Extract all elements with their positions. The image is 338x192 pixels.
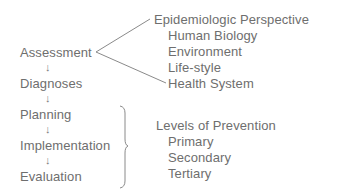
step-evaluation: Evaluation — [20, 169, 82, 184]
connector-upper — [96, 19, 150, 52]
arrow-down-icon: ↓ — [45, 124, 51, 135]
prevention-item: Primary — [168, 134, 213, 149]
prevention-item: Secondary — [168, 150, 231, 165]
step-planning: Planning — [20, 107, 71, 122]
prevention-item: Tertiary — [168, 166, 211, 181]
epidemiologic-item: Environment — [168, 44, 242, 59]
curly-brace — [120, 106, 128, 188]
arrow-down-icon: ↓ — [45, 155, 51, 166]
arrow-down-icon: ↓ — [45, 62, 51, 73]
connector-lower — [96, 52, 166, 83]
step-implementation: Implementation — [20, 138, 110, 153]
step-assessment: Assessment — [20, 45, 92, 60]
epidemiologic-item: Life-style — [168, 60, 221, 75]
epidemiologic-heading: Epidemiologic Perspective — [154, 12, 309, 27]
step-diagnoses: Diagnoses — [20, 76, 82, 91]
prevention-heading: Levels of Prevention — [156, 118, 276, 133]
arrow-down-icon: ↓ — [45, 93, 51, 104]
epidemiologic-item: Health System — [168, 76, 254, 91]
epidemiologic-item: Human Biology — [168, 28, 257, 43]
